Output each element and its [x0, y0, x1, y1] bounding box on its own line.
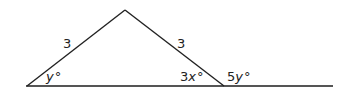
left-side — [27, 10, 125, 86]
exterior-angle-label: 5y° — [227, 69, 250, 84]
right-side-length: 3 — [177, 36, 185, 51]
angle-coef: 3 — [180, 69, 188, 84]
triangle-diagram: 3 3 y° 3x° 5y° — [0, 0, 350, 92]
degree-symbol: ° — [55, 69, 62, 84]
left-side-length: 3 — [63, 36, 71, 51]
right-base-angle-label: 3x° — [180, 69, 203, 84]
degree-symbol: ° — [197, 69, 204, 84]
angle-coef: 5 — [227, 69, 235, 84]
diagram-svg: 3 3 y° 3x° 5y° — [0, 0, 350, 92]
degree-symbol: ° — [244, 69, 251, 84]
right-side — [125, 10, 224, 86]
angle-var: x — [187, 69, 196, 84]
angle-var: y — [45, 69, 54, 84]
left-base-angle-label: y° — [45, 69, 61, 84]
angle-var: y — [234, 69, 243, 84]
